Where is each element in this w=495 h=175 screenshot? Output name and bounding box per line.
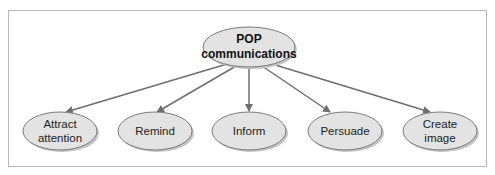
node-create-image: Create image [423, 117, 458, 145]
node-label-line1: Persuade [320, 124, 369, 138]
root-label-line2: communications [201, 47, 296, 62]
node-label-line2: attention [38, 131, 82, 145]
node-label-line1: Create [423, 117, 458, 131]
node-label-line2: image [423, 131, 458, 145]
arrow-to-attract-attention [66, 64, 227, 112]
root-label-line1: POP [201, 32, 296, 47]
node-label-line1: Attract [38, 117, 82, 131]
arrow-to-persuade [262, 66, 330, 112]
connector-arrows [66, 64, 430, 112]
node-label-line1: Inform [233, 124, 266, 138]
node-attract-attention: Attract attention [38, 117, 82, 145]
node-label-line1: Remind [135, 124, 175, 138]
node-persuade: Persuade [320, 124, 369, 138]
root-node-pop-communications: POP communications [201, 32, 296, 62]
node-remind: Remind [135, 124, 175, 138]
node-inform: Inform [233, 124, 266, 138]
diagram-canvas [0, 0, 495, 175]
